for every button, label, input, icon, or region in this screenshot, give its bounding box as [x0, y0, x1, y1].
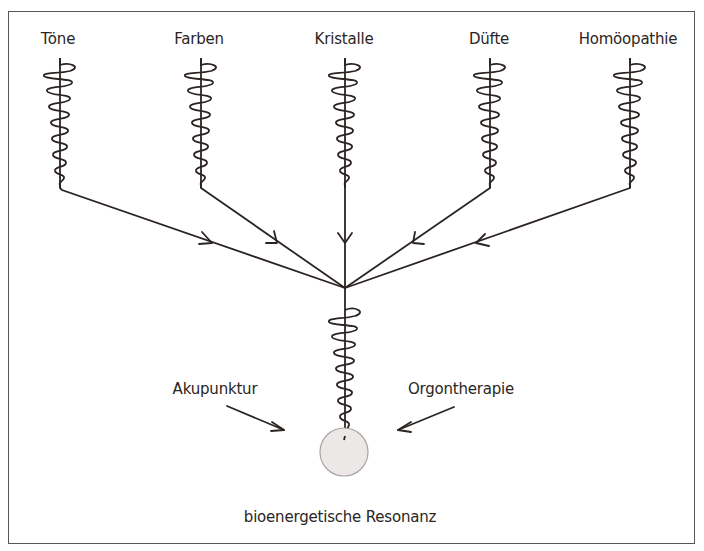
- diagram-canvas: [0, 0, 704, 551]
- label-kristalle: Kristalle: [315, 30, 374, 48]
- arrow-akupunktur-head-icon: [271, 422, 284, 431]
- label-orgontherapie: Orgontherapie: [408, 380, 514, 398]
- resonance-circle: [320, 428, 368, 476]
- label-tone: Töne: [41, 30, 75, 48]
- spiral-farben: [185, 58, 216, 188]
- arrow-orgontherapie-head-icon: [398, 422, 411, 432]
- label-farben: Farben: [174, 30, 224, 48]
- spiral-homoopathie: [614, 58, 645, 188]
- spiral-central: [329, 288, 360, 438]
- line-homoopathie: [345, 188, 630, 288]
- line-farben: [201, 188, 345, 288]
- spiral-dufte: [474, 58, 505, 188]
- label-homoopathie: Homöopathie: [579, 30, 678, 48]
- line-dufte: [345, 188, 490, 288]
- label-dufte: Düfte: [469, 30, 509, 48]
- label-akupunktur: Akupunktur: [173, 380, 258, 398]
- spiral-tone: [44, 58, 75, 188]
- converging-lines: [60, 188, 630, 288]
- spiral-kristalle: [329, 58, 360, 188]
- arrow-akupunktur: [227, 406, 284, 431]
- line-tone: [60, 188, 345, 288]
- arrowheads: [199, 231, 489, 246]
- label-target: bioenergetische Resonanz: [244, 508, 436, 526]
- arrow-orgontherapie: [398, 407, 454, 432]
